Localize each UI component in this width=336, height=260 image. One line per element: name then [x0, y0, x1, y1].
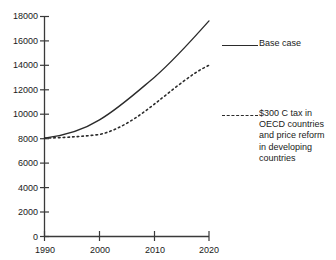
y-tick-label-4000: 4000	[0, 183, 38, 193]
y-tick-label-0: 0	[0, 232, 38, 242]
solid-line-swatch-icon	[222, 45, 258, 47]
legend-label-carbon-tax: $300 C tax in OECD countries and price r…	[259, 108, 335, 164]
x-tick-label-2020: 2020	[189, 245, 229, 255]
y-tick-label-6000: 6000	[0, 158, 38, 168]
dashed-line-swatch-icon	[222, 115, 258, 117]
y-tick-label-16000: 16000	[0, 36, 38, 46]
series-carbon-tax-line	[45, 65, 210, 138]
series-base-case-line	[45, 21, 210, 138]
y-tick-label-2000: 2000	[0, 207, 38, 217]
y-tick-label-18000: 18000	[0, 11, 38, 21]
line-chart-figure: 18000 16000 14000 12000 10000 8000 6000 …	[0, 0, 336, 260]
y-tick-label-12000: 12000	[0, 85, 38, 95]
y-tick-label-14000: 14000	[0, 60, 38, 70]
x-tick-label-1990: 1990	[25, 245, 65, 255]
legend-label-base-case: Base case	[259, 38, 335, 49]
x-tick-label-2000: 2000	[80, 245, 120, 255]
x-tick-label-2010: 2010	[135, 245, 175, 255]
y-tick-label-8000: 8000	[0, 134, 38, 144]
y-tick-label-10000: 10000	[0, 109, 38, 119]
